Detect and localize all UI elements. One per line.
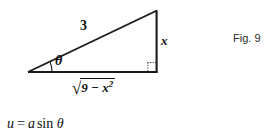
figure-caption: Fig. 9 [233, 32, 261, 44]
radicand-exponent: 2 [109, 79, 113, 89]
equation-function: sin [37, 116, 53, 131]
equation-line: u=asin θ [7, 116, 64, 132]
sqrt-expression: √9 − x2 [72, 78, 115, 97]
equation-coefficient: a [28, 116, 35, 131]
equation-argument: θ [57, 116, 64, 131]
equation-operator: = [17, 116, 25, 131]
right-angle-marker-icon [148, 62, 157, 71]
adjacent-side-label: √9 − x2 [72, 78, 115, 97]
equation-lhs: u [7, 116, 14, 131]
radicand: 9 − x2 [80, 78, 115, 94]
angle-theta-label: θ [55, 54, 62, 68]
triangle-hypotenuse-line [28, 11, 157, 73]
theta-arc-icon [50, 62, 52, 72]
triangle-outline [28, 11, 158, 73]
radicand-base: 9 − x [81, 80, 108, 95]
opposite-side-label: x [161, 34, 168, 47]
hypotenuse-label: 3 [80, 19, 87, 33]
